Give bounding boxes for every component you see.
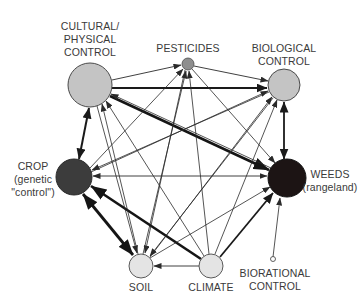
node-soil [129,254,153,278]
label-biological-control: BIOLOGICAL CONTROL [245,42,323,68]
edge-soil-cultural [102,104,138,254]
edge-biological-soil [150,98,273,256]
node-pesticides [182,58,194,70]
label-line: CROP [10,160,56,173]
label-line: BIOLOGICAL [245,42,323,55]
node-crop [56,159,92,195]
edge-climate-cultural [106,101,204,256]
label-pesticides: PESTICIDES [152,42,224,55]
node-biological-control [268,69,300,101]
edge-pesticides-biological [194,66,268,81]
label-line: (genetic [10,173,56,186]
node-biorational-control [271,257,276,262]
edge-cultural-pesticides [112,65,181,80]
label-line: BIORATIONAL [238,267,312,280]
edge-biorational-weeds [273,198,280,257]
label-soil: SOIL [121,281,161,294]
edge-soil-weeds [150,187,270,258]
label-line: CONTROL [58,46,122,59]
edge-pesticides-soil [145,70,185,253]
edge-cultural-weeds [110,96,269,170]
label-crop: CROP (genetic "control") [10,160,56,199]
label-climate: CLIMATE [184,281,238,294]
label-line: (rangeland) [300,181,360,194]
edge-climate-weeds [220,193,273,257]
edge-cultural-crop [79,108,89,159]
edge-climate-pesticides [189,71,209,254]
node-cultural-physical-control [68,63,112,107]
label-line: SOIL [121,281,161,294]
edge-cultural-soil [97,106,137,253]
label-line: PESTICIDES [152,42,224,55]
label-line: CULTURAL/ [58,20,122,33]
label-line: WEEDS [300,168,360,181]
label-cultural-physical-control: CULTURAL/ PHYSICAL CONTROL [58,20,122,59]
label-weeds: WEEDS (rangeland) [300,168,360,194]
label-line: CLIMATE [184,281,238,294]
label-line: PHYSICAL [58,33,122,46]
label-line: CONTROL [245,55,323,68]
label-line: CONTROL [238,280,312,293]
label-line: "control") [10,186,56,199]
node-climate [199,254,223,278]
label-biorational-control: BIORATIONAL CONTROL [238,267,312,293]
